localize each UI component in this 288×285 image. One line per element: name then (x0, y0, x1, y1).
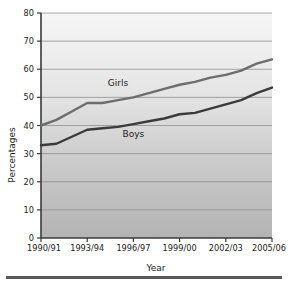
y-tick-label: 70 (24, 36, 34, 46)
y-tick-label: 10 (24, 205, 34, 215)
x-tick-label: 1993/94 (70, 243, 104, 253)
y-tick-label: 80 (24, 8, 34, 18)
y-axis-ticks: 01020304050607080 (24, 8, 41, 243)
y-tick-label: 30 (24, 149, 34, 159)
series-label-girls: Girls (108, 78, 129, 88)
x-axis-title: Year (145, 263, 165, 273)
x-tick-label: 1999/00 (163, 243, 197, 253)
y-axis-title: Percentages (7, 127, 17, 183)
footer-rule (6, 276, 282, 279)
y-tick-label: 40 (24, 121, 34, 131)
y-tick-label: 0 (29, 233, 34, 243)
x-tick-label: 2005/06 (252, 243, 286, 253)
line-chart: 01020304050607080 1990/911993/941996/971… (0, 0, 288, 285)
y-tick-label: 60 (24, 64, 34, 74)
series-label-boys: Boys (123, 129, 145, 139)
y-tick-label: 50 (24, 92, 34, 102)
x-tick-label: 1990/91 (27, 243, 61, 253)
chart-figure: 01020304050607080 1990/911993/941996/971… (0, 0, 288, 285)
x-tick-label: 2002/03 (209, 243, 243, 253)
x-axis-ticks: 1990/911993/941996/971999/002002/032005/… (27, 238, 286, 253)
x-tick-label: 1996/97 (116, 243, 150, 253)
y-tick-label: 20 (24, 177, 34, 187)
